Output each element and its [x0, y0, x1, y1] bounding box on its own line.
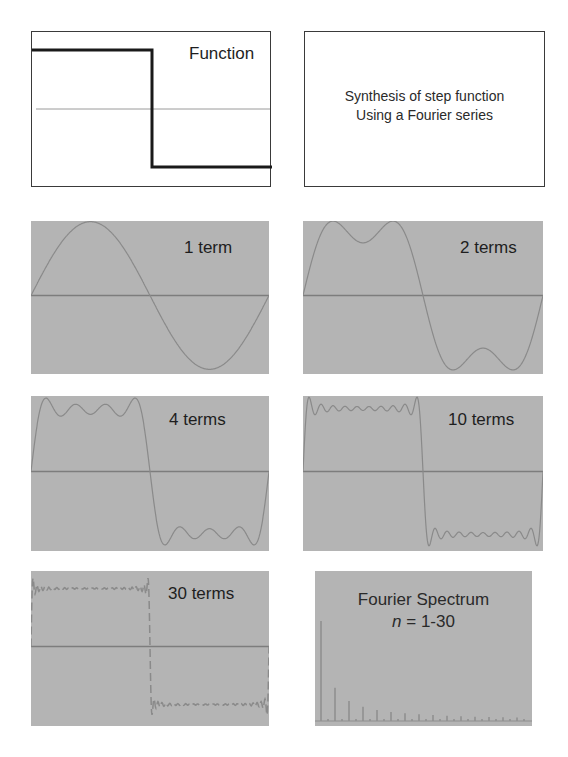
- panel-2-terms: 2 terms: [303, 221, 543, 374]
- label-30-terms: 30 terms: [168, 584, 234, 604]
- spectrum-range: n = 1-30: [315, 611, 532, 633]
- caption-panel: Synthesis of step function Using a Fouri…: [304, 31, 545, 187]
- caption-line-2: Using a Fourier series: [305, 106, 544, 125]
- plot-4-terms: [31, 396, 269, 551]
- label-10-terms: 10 terms: [448, 410, 514, 430]
- function-panel: Function: [31, 31, 271, 187]
- panel-30-terms: 30 terms: [31, 571, 269, 726]
- panel-fourier-spectrum: Fourier Spectrum n = 1-30: [315, 571, 532, 726]
- spectrum-title: Fourier Spectrum: [315, 589, 532, 611]
- plot-1-term: [31, 221, 269, 374]
- panel-1-term: 1 term: [31, 221, 269, 374]
- panel-4-terms: 4 terms: [31, 396, 269, 551]
- label-4-terms: 4 terms: [169, 410, 226, 430]
- caption-line-1: Synthesis of step function: [305, 87, 544, 106]
- label-1-term: 1 term: [184, 238, 232, 258]
- panel-10-terms: 10 terms: [303, 396, 543, 551]
- function-label: Function: [189, 44, 254, 64]
- label-2-terms: 2 terms: [460, 238, 517, 258]
